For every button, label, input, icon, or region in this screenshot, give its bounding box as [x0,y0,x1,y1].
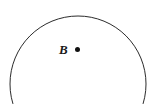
geometry-figure: B [0,0,158,104]
point-label-b: B [59,43,68,56]
figure-canvas [0,0,158,104]
center-point-dot-icon [75,47,80,52]
